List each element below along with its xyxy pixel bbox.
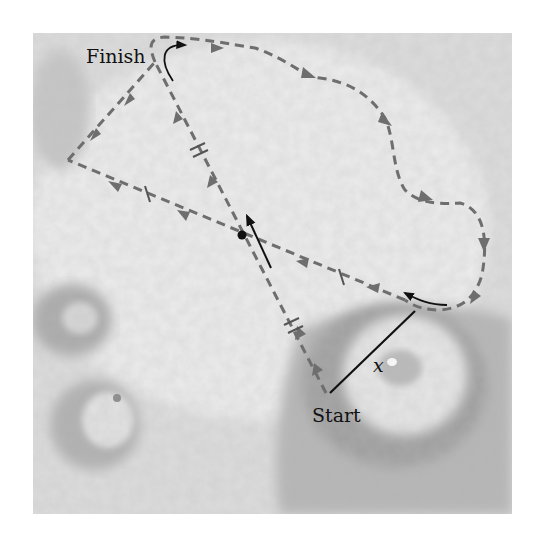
moon-surface-photo [30,33,512,514]
start-label: Start [312,404,361,426]
midpoint-dot [238,231,247,240]
displacement-label: x [373,354,384,376]
lunar-route-diagram: Finish Start x [0,0,546,535]
finish-label: Finish [86,45,146,67]
